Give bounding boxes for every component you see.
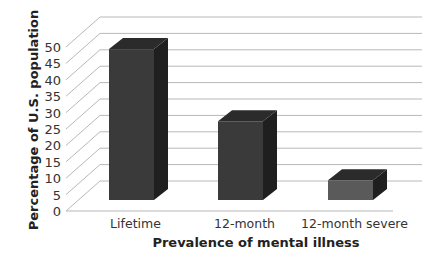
y-tick-label: 45 xyxy=(44,56,61,71)
y-tick-label: 5 xyxy=(53,188,61,203)
gridline-diagonal xyxy=(66,83,100,113)
x-tick-label: Lifetime xyxy=(110,216,161,231)
y-tick-label: 50 xyxy=(44,40,61,55)
bar-12-month xyxy=(218,110,277,200)
gridline-diagonal xyxy=(66,115,100,145)
gridline-diagonal xyxy=(66,66,100,96)
bar-12-month-severe xyxy=(328,169,387,200)
y-axis-ticks: 05101520253035404550 xyxy=(44,40,61,219)
gridline-diagonal xyxy=(66,99,100,129)
bar-chart: 05101520253035404550 Lifetime12-month12-… xyxy=(0,0,445,264)
bar-side-face xyxy=(154,38,168,200)
bar-front-face xyxy=(328,180,373,200)
bar-side-face xyxy=(263,110,277,200)
y-tick-label: 15 xyxy=(44,155,61,170)
y-tick-label: 35 xyxy=(44,89,61,104)
bar-front-face xyxy=(218,121,263,200)
y-axis-title: Percentage of U.S. population xyxy=(26,10,41,231)
bar-front-face xyxy=(109,49,154,200)
y-tick-label: 40 xyxy=(44,73,61,88)
y-tick-label: 30 xyxy=(44,106,61,121)
gridline-diagonal xyxy=(66,181,100,211)
gridline-diagonal xyxy=(66,132,100,162)
gridline-diagonal xyxy=(66,17,100,47)
gridline-diagonal xyxy=(66,33,100,63)
bar-lifetime xyxy=(109,38,168,200)
y-tick-label: 20 xyxy=(44,138,61,153)
gridline-diagonal xyxy=(66,148,100,178)
y-tick-label: 0 xyxy=(53,204,61,219)
gridline-diagonal xyxy=(66,165,100,195)
y-tick-label: 25 xyxy=(44,122,61,137)
x-tick-label: 12-month xyxy=(214,216,275,231)
bars xyxy=(109,38,387,200)
x-axis-ticks: Lifetime12-month12-month severe xyxy=(110,216,408,231)
x-tick-label: 12-month severe xyxy=(301,216,408,231)
x-axis-title: Prevalence of mental illness xyxy=(152,235,359,250)
gridline-diagonal xyxy=(66,50,100,80)
y-tick-label: 10 xyxy=(44,171,61,186)
